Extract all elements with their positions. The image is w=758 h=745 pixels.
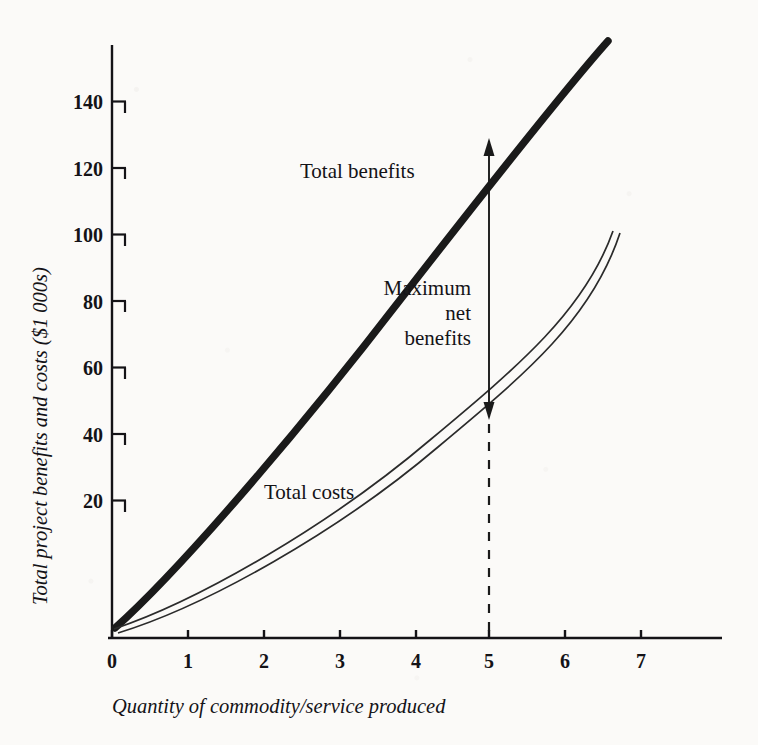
economics-benefit-cost-chart: 140 120 100 80 60 40 20 0 1 2 3 4 5 [0, 0, 758, 745]
chart-page: 140 120 100 80 60 40 20 0 1 2 3 4 5 [0, 0, 758, 745]
x-tick-label-6: 6 [560, 650, 570, 672]
net-benefits-arrowhead-up [484, 138, 495, 156]
max-net-benefits-line-2: net [445, 301, 471, 325]
y-tick-label-60: 60 [83, 357, 103, 379]
x-tick-label-1: 1 [183, 650, 193, 672]
y-axis-tick-labels: 140 120 100 80 60 40 20 [73, 91, 103, 512]
net-benefits-arrowhead-down [484, 402, 495, 420]
y-tick-label-140: 140 [73, 91, 103, 113]
y-axis-title: Total project benefits and costs ($1 000… [29, 267, 52, 605]
y-tick-label-20: 20 [83, 490, 103, 512]
y-tick-label-80: 80 [83, 291, 103, 313]
total-costs-curve [114, 231, 620, 633]
x-axis-title: Quantity of commodity/service produced [112, 695, 446, 718]
total-costs-curve-inner [118, 233, 620, 633]
y-tick-label-100: 100 [73, 224, 103, 246]
y-tick-label-120: 120 [73, 158, 103, 180]
x-tick-label-2: 2 [259, 650, 269, 672]
x-axis-tick-labels: 0 1 2 3 4 5 6 7 [107, 650, 646, 672]
y-tick-label-40: 40 [83, 424, 103, 446]
total-benefits-curve [115, 41, 608, 628]
max-net-benefits-line-3: benefits [405, 326, 471, 350]
x-tick-label-3: 3 [335, 650, 345, 672]
x-tick-label-5: 5 [484, 650, 494, 672]
total-benefits-label: Total benefits [300, 159, 415, 183]
max-net-benefits-line-1: Maximum [384, 276, 472, 300]
total-costs-curve-outer [114, 231, 613, 629]
maximum-net-benefits-label: Maximum net benefits [384, 276, 472, 350]
x-tick-label-0: 0 [107, 650, 117, 672]
x-tick-label-7: 7 [636, 650, 646, 672]
x-tick-label-4: 4 [411, 650, 421, 672]
total-costs-label: Total costs [264, 480, 354, 504]
